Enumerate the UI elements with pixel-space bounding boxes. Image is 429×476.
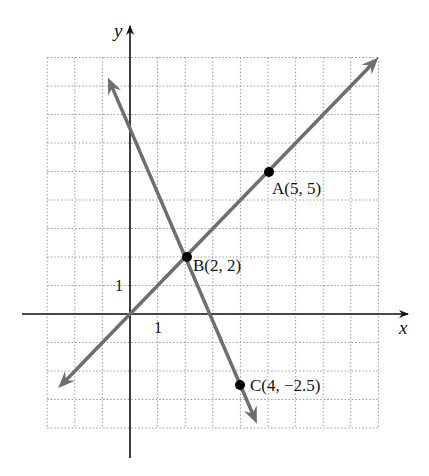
point-c-label: C(4, −2.5) (250, 376, 321, 395)
point-c (235, 380, 245, 390)
point-b-label: B(2, 2) (193, 256, 241, 275)
point-a-label: A(5, 5) (272, 179, 321, 198)
y-tick-label: 1 (115, 277, 123, 294)
y-axis-label: y (112, 20, 123, 41)
coordinate-plane: y x 1 1 A(5, 5) B(2, 2) C(4, −2.5) (0, 0, 429, 476)
x-tick-label: 1 (154, 319, 162, 336)
point-a (264, 167, 274, 177)
point-b (182, 252, 192, 262)
line-b-c (112, 87, 253, 415)
x-axis-label: x (398, 317, 408, 338)
grid (47, 58, 378, 429)
